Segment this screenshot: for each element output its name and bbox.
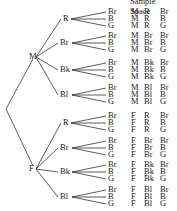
- outcome-second: G: [160, 72, 166, 81]
- branch-line: [72, 43, 106, 50]
- outcome-second: G: [160, 174, 166, 183]
- branch-line: [72, 95, 106, 102]
- outcome-gender: M: [131, 72, 139, 81]
- branch-line: [72, 63, 106, 70]
- branch-line: [6, 59, 33, 109]
- branch-line: [36, 148, 58, 169]
- outcome-first: Br: [144, 150, 153, 159]
- branch-line: [36, 57, 58, 70]
- branch-line: [71, 123, 106, 130]
- node-Bk: Bk: [60, 65, 70, 74]
- branch-line: [36, 123, 61, 169]
- node-R: R: [63, 14, 69, 23]
- branch-line: [36, 19, 61, 57]
- branch-line: [72, 190, 106, 197]
- branch-line: [36, 57, 58, 95]
- outcome-first: Bk: [144, 174, 154, 183]
- node-Bl: Bl: [60, 90, 68, 99]
- node-Br: Br: [60, 143, 69, 152]
- branch-line: [72, 70, 106, 77]
- outcome-first: Bk: [144, 72, 154, 81]
- leaf-G: G: [108, 21, 114, 30]
- node-Br: Br: [60, 38, 69, 47]
- branch-line: [36, 43, 58, 57]
- branch-line: [71, 12, 106, 19]
- branch-line: [72, 36, 106, 43]
- leaf-G: G: [108, 150, 114, 159]
- outcome-gender: M: [131, 21, 139, 30]
- branch-line: [6, 109, 33, 166]
- branch-line: [72, 141, 106, 148]
- outcome-gender: F: [131, 174, 136, 183]
- outcome-gender: F: [131, 150, 136, 159]
- node-F: F: [29, 164, 34, 173]
- outcome-first: R: [144, 125, 150, 134]
- leaf-G: G: [108, 174, 114, 183]
- leaf-G: G: [108, 199, 114, 208]
- outcome-gender: M: [131, 97, 139, 106]
- outcome-second: G: [160, 199, 166, 208]
- leaf-G: G: [108, 97, 114, 106]
- branch-line: [71, 19, 106, 26]
- outcome-second: G: [160, 125, 166, 134]
- branch-line: [36, 169, 58, 197]
- outcome-first: Bl: [144, 199, 152, 208]
- leaf-G: G: [108, 72, 114, 81]
- node-R: R: [63, 118, 69, 127]
- branch-line: [72, 197, 106, 204]
- node-Bk: Bk: [60, 167, 70, 176]
- leaf-G: G: [108, 45, 114, 54]
- branch-line: [72, 148, 106, 155]
- outcome-second: G: [160, 21, 166, 30]
- outcome-gender: M: [131, 45, 139, 54]
- branch-line: [72, 172, 106, 179]
- branch-line: [71, 116, 106, 123]
- outcome-first: Bl: [144, 97, 152, 106]
- node-Bl: Bl: [60, 192, 68, 201]
- leaf-G: G: [108, 125, 114, 134]
- branch-line: [36, 169, 58, 172]
- node-M: M: [29, 52, 37, 61]
- branch-line: [72, 165, 106, 172]
- outcome-first: Br: [144, 45, 153, 54]
- outcome-first: R: [144, 21, 150, 30]
- outcome-gender: F: [131, 125, 136, 134]
- outcome-second: G: [160, 97, 166, 106]
- outcome-second: G: [160, 45, 166, 54]
- outcome-gender: F: [131, 199, 136, 208]
- branch-line: [72, 88, 106, 95]
- outcome-second: G: [160, 150, 166, 159]
